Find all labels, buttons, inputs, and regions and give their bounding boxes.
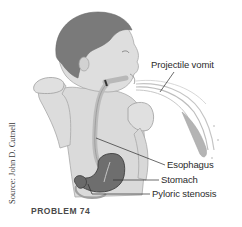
problem-label: PROBLEM 74 [31,206,90,216]
label-stomach: Stomach [161,174,198,185]
child-ear [79,57,89,71]
pyloric-stenosis-illustration: Projectile vomit Esophagus Stomach Pylor… [0,0,242,227]
label-pyloric-stenosis: Pyloric stenosis [152,188,216,199]
source-credit: Source: John D. Cutnell [7,122,17,204]
label-projectile-vomit: Projectile vomit [151,59,214,70]
label-esophagus: Esophagus [167,159,214,170]
child-left-fist [34,77,64,93]
